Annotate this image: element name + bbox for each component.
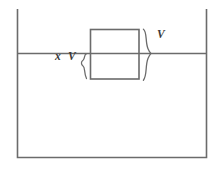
fluid-container-outline <box>18 9 207 158</box>
buoyancy-diagram-svg: x V V <box>0 0 222 169</box>
total-volume-brace <box>143 29 151 80</box>
submerged-depth-brace <box>81 54 86 79</box>
floating-block <box>91 30 140 80</box>
submerged-volume-label: x V <box>54 50 78 62</box>
total-volume-label: V <box>157 28 166 40</box>
figure-root: x V V <box>0 0 222 169</box>
